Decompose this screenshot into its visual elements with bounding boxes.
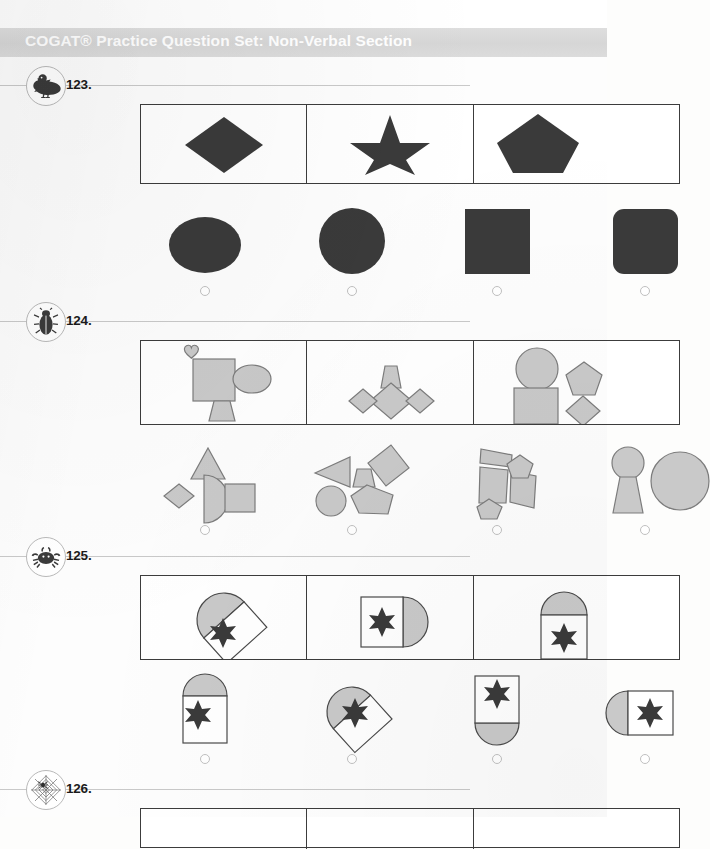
question-number-125: 125. bbox=[66, 548, 91, 563]
square-dome-bottom-star-c bbox=[432, 668, 562, 750]
page-top-margin bbox=[0, 0, 607, 28]
prompt-cell-126-3 bbox=[474, 809, 679, 849]
square-halfcircle-right-star bbox=[307, 576, 473, 659]
answer-option-123-a[interactable] bbox=[140, 206, 270, 298]
answer-bubble-123-d[interactable] bbox=[640, 286, 650, 296]
prompt-cell-124-1 bbox=[141, 341, 307, 424]
prompt-cell-126-2 bbox=[307, 809, 473, 849]
answer-bubble-123-c[interactable] bbox=[492, 286, 502, 296]
answer-option-125-c[interactable] bbox=[432, 668, 562, 768]
spiderweb-icon bbox=[30, 774, 62, 806]
duck-icon bbox=[31, 73, 61, 99]
prompt-row-126 bbox=[140, 808, 680, 848]
rotated-square-dome-star bbox=[141, 576, 307, 659]
prompt-cell-diamond bbox=[141, 105, 307, 183]
prompt-cell-125-2 bbox=[307, 576, 473, 659]
diamond-shape bbox=[141, 105, 307, 183]
crab-icon bbox=[31, 545, 61, 569]
circle-shape bbox=[287, 206, 417, 276]
answer-option-124-b[interactable] bbox=[287, 443, 417, 538]
prompt-row-125 bbox=[140, 575, 680, 660]
badge-crab bbox=[26, 537, 66, 577]
question-number-124: 124. bbox=[66, 313, 91, 328]
answer-row-124 bbox=[140, 443, 680, 538]
shape-group-b bbox=[287, 443, 417, 518]
ellipse-shape bbox=[140, 206, 270, 276]
answer-option-124-a[interactable] bbox=[140, 443, 270, 538]
answer-bubble-124-a[interactable] bbox=[200, 525, 210, 535]
answer-bubble-125-a[interactable] bbox=[200, 754, 210, 764]
rotated-square-dome-star-b bbox=[287, 668, 417, 750]
answer-row-125 bbox=[140, 668, 680, 768]
beetle-icon bbox=[33, 307, 59, 337]
answer-option-124-c[interactable] bbox=[432, 443, 562, 538]
answer-bubble-125-d[interactable] bbox=[640, 754, 650, 764]
square-dome-top-star bbox=[474, 576, 679, 659]
page-title: COGAT® Practice Question Set: Non-Verbal… bbox=[25, 32, 585, 50]
prompt-row-123 bbox=[140, 104, 680, 184]
answer-bubble-124-d[interactable] bbox=[640, 525, 650, 535]
shape-group-heart-square-ellipse-trapezoid bbox=[141, 341, 307, 424]
square-dome-top-star-a bbox=[140, 668, 270, 750]
badge-spiderweb bbox=[26, 770, 66, 810]
answer-bubble-124-c[interactable] bbox=[492, 525, 502, 535]
answer-option-123-c[interactable] bbox=[432, 206, 562, 298]
answer-option-125-b[interactable] bbox=[287, 668, 417, 768]
question-number-123: 123. bbox=[66, 77, 91, 92]
answer-option-124-d[interactable] bbox=[580, 443, 710, 538]
shape-group-c bbox=[432, 443, 562, 521]
pentagon-shape bbox=[474, 105, 679, 183]
answer-row-123 bbox=[140, 206, 680, 298]
question-number-126: 126. bbox=[66, 781, 91, 796]
answer-bubble-125-b[interactable] bbox=[347, 754, 357, 764]
answer-option-125-d[interactable] bbox=[580, 668, 710, 768]
square-shape bbox=[432, 206, 562, 276]
square-halfcircle-left-star-d bbox=[580, 668, 710, 750]
prompt-cell-125-3 bbox=[474, 576, 679, 659]
answer-bubble-123-b[interactable] bbox=[347, 286, 357, 296]
shape-group-a bbox=[140, 443, 270, 518]
prompt-cell-126-1 bbox=[141, 809, 307, 849]
badge-duck bbox=[26, 66, 66, 106]
prompt-cell-124-3 bbox=[474, 341, 679, 424]
answer-option-123-d[interactable] bbox=[580, 206, 710, 298]
shape-group-trapezoid-diamonds bbox=[307, 341, 473, 424]
shape-group-circle-square-pentagon-diamond bbox=[474, 341, 679, 424]
prompt-row-124 bbox=[140, 340, 680, 425]
prompt-cell-pentagon bbox=[474, 105, 679, 183]
prompt-cell-star bbox=[307, 105, 473, 183]
shape-group-d bbox=[580, 443, 710, 521]
answer-bubble-125-c[interactable] bbox=[492, 754, 502, 764]
badge-beetle bbox=[26, 302, 66, 342]
star-shape bbox=[307, 105, 473, 183]
answer-bubble-124-b[interactable] bbox=[347, 525, 357, 535]
answer-bubble-123-a[interactable] bbox=[200, 286, 210, 296]
prompt-cell-124-2 bbox=[307, 341, 473, 424]
answer-option-125-a[interactable] bbox=[140, 668, 270, 768]
rounded-square-shape bbox=[580, 206, 710, 276]
prompt-cell-125-1 bbox=[141, 576, 307, 659]
answer-option-123-b[interactable] bbox=[287, 206, 417, 298]
